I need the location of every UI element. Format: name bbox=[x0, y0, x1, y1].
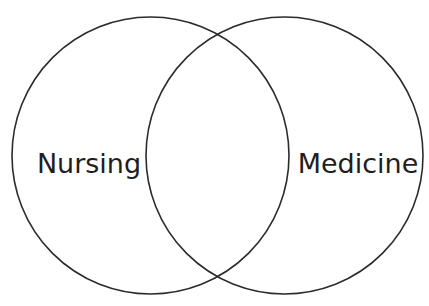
medicine-label: Medicine bbox=[298, 148, 419, 179]
nursing-label: Nursing bbox=[37, 148, 141, 179]
venn-diagram: Nursing Medicine bbox=[0, 0, 429, 306]
